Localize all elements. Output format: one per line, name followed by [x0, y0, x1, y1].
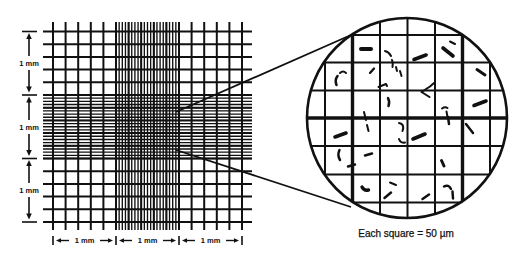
scale-label: 1 mm [75, 236, 95, 245]
bacterium [388, 98, 389, 106]
scale-label: 1 mm [19, 123, 39, 132]
arrow-up-icon [26, 33, 32, 39]
left-scale-segment: 1 mm [19, 97, 39, 159]
scale-label: 1 mm [201, 236, 221, 245]
bacterium [392, 60, 393, 67]
bottom-scale-segment: 1 mm [119, 236, 176, 245]
arrow-right-icon [234, 238, 239, 243]
bottom-scale-segment: 1 mm [182, 236, 239, 245]
magnified-view-caption: Each square = 50 µm [358, 228, 454, 239]
dense-ruling-horizontal-band [43, 95, 252, 159]
arrow-right-icon [108, 238, 113, 243]
bottom-scale-segment: 1 mm [56, 236, 113, 245]
left-scale-segment: 1 mm [19, 32, 39, 96]
bottom-scale: 1 mm 1 mm 1 mm [53, 236, 242, 245]
bacterium [396, 67, 397, 71]
left-scale: 1 mm 1 mm 1 mm [19, 32, 39, 223]
left-scale-segment: 1 mm [19, 160, 39, 222]
scale-label: 1 mm [19, 59, 39, 68]
arrow-down-icon [26, 150, 32, 156]
arrow-up-icon [26, 97, 32, 103]
magnified-view [290, 0, 529, 259]
arrow-down-icon [26, 214, 32, 220]
bacterium [442, 107, 448, 108]
bacterium [448, 117, 449, 124]
scale-label: 1 mm [19, 186, 39, 195]
dense-ruling-vertical-band [116, 22, 179, 230]
arrow-down-icon [26, 87, 32, 93]
arrow-right-icon [171, 238, 176, 243]
hemocytometer-diagram: 1 mm 1 mm 1 mm [0, 0, 529, 259]
scale-label: 1 mm [138, 236, 158, 245]
bacterium [453, 192, 454, 199]
arrow-up-icon [26, 160, 32, 166]
